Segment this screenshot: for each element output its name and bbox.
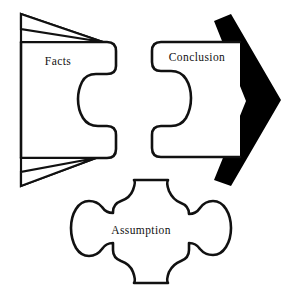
puzzle-diagram: Facts Conclusion Assumption bbox=[0, 0, 296, 300]
triangle-flag-marks-bottom bbox=[21, 158, 96, 186]
piece-label-facts: Facts bbox=[45, 55, 71, 67]
piece-label-conclusion: Conclusion bbox=[169, 51, 225, 63]
diagram-canvas: Facts Conclusion Assumption bbox=[0, 0, 296, 300]
piece-label-assumption: Assumption bbox=[111, 224, 171, 237]
triangle-flag-marks-top bbox=[21, 14, 103, 42]
